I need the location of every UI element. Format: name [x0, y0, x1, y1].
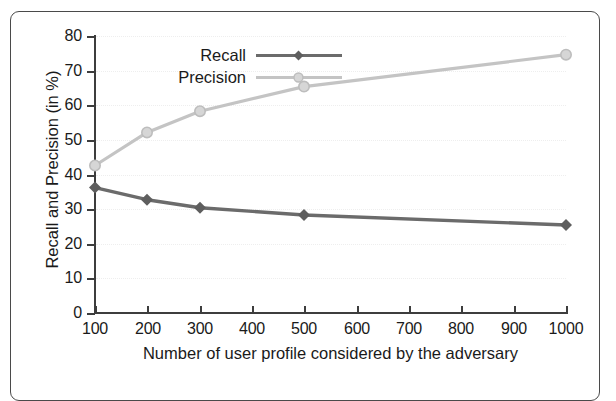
gridline-40 [96, 175, 566, 177]
legend-marker-diamond-icon [293, 50, 304, 61]
x-tick-1000 [566, 306, 568, 314]
x-tick-300 [200, 306, 202, 314]
x-tick-500 [304, 306, 306, 314]
y-tick-0 [87, 313, 95, 315]
x-tick-label-1000: 1000 [536, 320, 596, 338]
x-tick-label-200: 200 [118, 320, 178, 338]
y-tick-10 [87, 278, 95, 280]
x-tick-label-500: 500 [274, 320, 334, 338]
y-tick-60 [87, 105, 95, 107]
legend-marker-circle-icon [293, 72, 304, 83]
x-tick-700 [409, 306, 411, 314]
x-tick-900 [514, 306, 516, 314]
gridline-50 [96, 140, 566, 142]
y-tick-40 [87, 175, 95, 177]
y-tick-80 [87, 36, 95, 38]
x-tick-label-900: 900 [484, 320, 544, 338]
x-tick-200 [147, 306, 149, 314]
legend-item-precision: Precision [138, 66, 353, 88]
x-axis-title: Number of user profile considered by the… [95, 344, 566, 363]
x-tick-100 [95, 306, 97, 314]
y-tick-20 [87, 244, 95, 246]
gridline-10 [96, 278, 566, 280]
y-tick-label-80: 80 [40, 27, 82, 45]
legend-sample-recall [256, 47, 342, 63]
legend-sample-precision [256, 69, 342, 85]
x-tick-400 [252, 306, 254, 314]
x-tick-label-800: 800 [431, 320, 491, 338]
y-tick-50 [87, 140, 95, 142]
gridline-20 [96, 244, 566, 246]
x-tick-label-400: 400 [222, 320, 282, 338]
x-tick-800 [461, 306, 463, 314]
chart-legend: Recall Precision [138, 44, 353, 88]
x-tick-label-100: 100 [65, 320, 125, 338]
x-tick-label-600: 600 [327, 320, 387, 338]
gridline-80 [96, 36, 566, 38]
gridline-60 [96, 105, 566, 107]
legend-label-recall: Recall [138, 46, 256, 65]
gridline-30 [96, 209, 566, 211]
legend-item-recall: Recall [138, 44, 353, 66]
y-tick-70 [87, 71, 95, 73]
x-tick-600 [357, 306, 359, 314]
x-axis-line [94, 312, 568, 314]
y-axis-title: Recall and Precision (in %) [43, 55, 62, 285]
x-tick-label-700: 700 [379, 320, 439, 338]
y-tick-30 [87, 209, 95, 211]
legend-label-precision: Precision [138, 68, 256, 87]
x-tick-label-300: 300 [170, 320, 230, 338]
